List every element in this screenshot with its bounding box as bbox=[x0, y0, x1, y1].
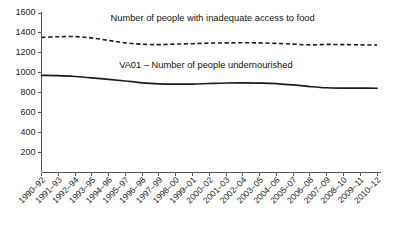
series-annotation-1: Number of people with inadequate access … bbox=[111, 13, 315, 23]
line-chart: 2004006008001000120014001600 1990–921991… bbox=[0, 0, 399, 225]
y-tick-label: 800 bbox=[20, 87, 35, 97]
y-tick-group: 2004006008001000120014001600 bbox=[15, 7, 41, 157]
chart-container: 2004006008001000120014001600 1990–921991… bbox=[0, 0, 399, 225]
y-axis: 2004006008001000120014001600 bbox=[15, 7, 41, 172]
y-tick-label: 200 bbox=[20, 147, 35, 157]
y-tick-label: 1600 bbox=[15, 7, 35, 17]
series-label-group: Number of people with inadequate access … bbox=[111, 13, 315, 70]
series-line-1 bbox=[42, 37, 378, 46]
y-tick-label: 1200 bbox=[15, 47, 35, 57]
y-tick-label: 400 bbox=[20, 127, 35, 137]
series-line-2 bbox=[42, 75, 378, 88]
y-tick-label: 600 bbox=[20, 107, 35, 117]
y-tick-label: 1000 bbox=[15, 67, 35, 77]
x-axis: 1990–921991–931992–941993–951994–961995–… bbox=[16, 173, 382, 206]
x-tick-group: 1990–921991–931992–941993–951994–961995–… bbox=[16, 173, 382, 206]
y-tick-label: 1400 bbox=[15, 27, 35, 37]
series-annotation-2: VA01 – Number of people undernourished bbox=[119, 60, 293, 70]
